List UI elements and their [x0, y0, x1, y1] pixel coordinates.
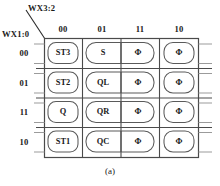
kmap-grid-graphic — [0, 0, 220, 186]
kmap-cell-r0c0: ST3 — [48, 49, 78, 57]
column-header-0: 00 — [56, 25, 70, 34]
column-header-1: 01 — [95, 25, 109, 34]
karnaugh-map-figure: WX3:2 WX1:0 00 01 11 10 00 01 11 10 ST3 … — [0, 0, 220, 186]
kmap-cell-r3c3: Φ — [164, 138, 194, 146]
kmap-cell-r0c3: Φ — [164, 49, 194, 57]
kmap-cell-r2c1: QR — [86, 108, 120, 116]
kmap-cell-r0c1: S — [86, 49, 120, 57]
kmap-cell-r2c3: Φ — [164, 108, 194, 116]
kmap-cell-r3c1: QC — [86, 138, 120, 146]
row-axis-label: WX1:0 — [2, 30, 29, 39]
kmap-cell-r2c2: Φ — [122, 108, 154, 116]
row-header-2: 11 — [17, 108, 31, 117]
kmap-cell-r0c2: Φ — [122, 49, 154, 57]
column-header-3: 10 — [172, 25, 186, 34]
column-axis-label: WX3:2 — [28, 4, 55, 13]
row-header-0: 00 — [17, 49, 31, 58]
row-header-1: 01 — [17, 79, 31, 88]
column-header-2: 11 — [133, 25, 147, 34]
kmap-cell-r3c0: ST1 — [48, 138, 78, 146]
kmap-cell-r1c2: Φ — [122, 79, 154, 87]
kmap-cell-r1c0: ST2 — [48, 79, 78, 87]
row-header-3: 10 — [17, 138, 31, 147]
kmap-cell-r2c0: Q — [48, 108, 78, 116]
kmap-cell-r1c1: QL — [86, 79, 120, 87]
kmap-cell-r3c2: Φ — [122, 138, 154, 146]
kmap-cell-r1c3: Φ — [164, 79, 194, 87]
figure-caption: (a) — [0, 166, 220, 176]
